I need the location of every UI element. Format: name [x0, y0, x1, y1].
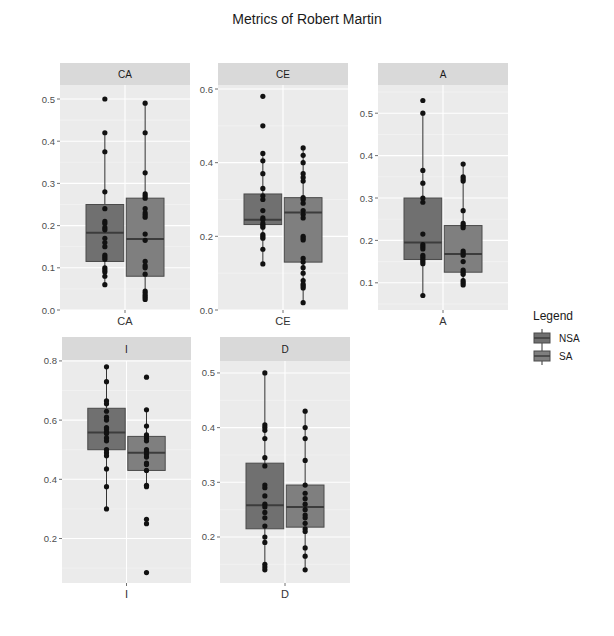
data-point [104, 506, 109, 511]
data-point [144, 484, 149, 489]
y-tick-label: 0.1 [360, 277, 373, 288]
data-point [262, 428, 267, 433]
data-point [420, 246, 425, 251]
x-axis-label: D [281, 588, 289, 600]
data-point [102, 96, 107, 101]
data-point [420, 98, 425, 103]
data-point [301, 160, 306, 165]
data-point [461, 161, 466, 166]
data-point [104, 466, 109, 471]
data-point [104, 364, 109, 369]
data-point [260, 197, 265, 202]
panel-ca: CA0.00.10.20.30.40.5CA [42, 63, 190, 327]
x-axis-label: A [439, 315, 447, 327]
data-point [143, 265, 148, 270]
legend-entry-sa: SA [534, 347, 573, 365]
data-point [301, 285, 306, 290]
y-tick-label: 0.0 [42, 305, 55, 316]
data-point [104, 431, 109, 436]
y-tick-label: 0.5 [360, 108, 373, 119]
data-point [303, 425, 308, 430]
data-point [461, 282, 466, 287]
legend-entries: NSASA [534, 329, 580, 365]
data-point [262, 515, 267, 520]
data-point [420, 111, 425, 116]
data-point [102, 227, 107, 232]
data-point [262, 523, 267, 528]
strip-label: CA [118, 69, 132, 80]
data-point [104, 438, 109, 443]
data-point [102, 189, 107, 194]
data-point [262, 485, 267, 490]
data-point [461, 259, 466, 264]
panel-a: A0.10.20.30.40.5A [360, 63, 508, 327]
x-axis-label: CE [275, 315, 290, 327]
y-tick-label: 0.4 [42, 136, 55, 147]
data-point [260, 171, 265, 176]
data-point [262, 493, 267, 498]
data-point [104, 409, 109, 414]
data-point [461, 253, 466, 258]
data-point [301, 300, 306, 305]
data-point [420, 231, 425, 236]
legend-label: NSA [559, 333, 580, 344]
legend-label: SA [559, 351, 573, 362]
chart: Metrics of Robert Martin CA0.00.10.20.30… [0, 0, 614, 636]
data-point [461, 225, 466, 230]
data-point [303, 496, 308, 501]
data-point [303, 482, 308, 487]
data-point [262, 370, 267, 375]
y-tick-label: 0.0 [200, 305, 213, 316]
data-point [301, 271, 306, 276]
data-point [262, 436, 267, 441]
y-tick-label: 0.4 [202, 422, 215, 433]
data-point [260, 186, 265, 191]
data-point [144, 423, 149, 428]
legend: Legend NSASA [533, 309, 580, 365]
data-point [303, 458, 308, 463]
data-point [420, 168, 425, 173]
data-point [144, 521, 149, 526]
data-point [260, 236, 265, 241]
data-point [260, 158, 265, 163]
data-point [303, 507, 308, 512]
legend-entry-nsa: NSA [534, 329, 580, 347]
y-tick-label: 0.3 [42, 178, 55, 189]
data-point [144, 468, 149, 473]
data-point [104, 453, 109, 458]
y-tick-label: 0.2 [202, 531, 215, 542]
data-point [104, 484, 109, 489]
y-tick-label: 0.4 [360, 150, 373, 161]
data-point [301, 215, 306, 220]
data-point [260, 208, 265, 213]
data-point [420, 261, 425, 266]
data-point [301, 260, 306, 265]
data-point [303, 545, 308, 550]
data-point [303, 409, 308, 414]
data-point [461, 178, 466, 183]
data-point [301, 201, 306, 206]
data-point [301, 237, 306, 242]
data-point [303, 529, 308, 534]
panel-ce: CE0.00.20.40.6CE [200, 63, 348, 327]
data-point [303, 491, 308, 496]
data-point [143, 170, 148, 175]
y-tick-label: 0.2 [42, 220, 55, 231]
y-tick-label: 0.6 [44, 415, 57, 426]
data-point [143, 196, 148, 201]
data-point [102, 130, 107, 135]
data-point [144, 570, 149, 575]
data-point [262, 504, 267, 509]
data-point [144, 462, 149, 467]
strip-label: D [281, 344, 288, 355]
data-point [303, 436, 308, 441]
panel-i: I0.20.40.60.8I [44, 337, 191, 600]
panels: CA0.00.10.20.30.40.5CACE0.00.20.40.6CEA0… [42, 63, 508, 600]
data-point [104, 418, 109, 423]
x-axis-label: I [125, 588, 128, 600]
y-tick-label: 0.3 [202, 477, 215, 488]
data-point [143, 231, 148, 236]
data-point [262, 540, 267, 545]
y-tick-label: 0.8 [44, 355, 57, 366]
data-point [303, 502, 308, 507]
